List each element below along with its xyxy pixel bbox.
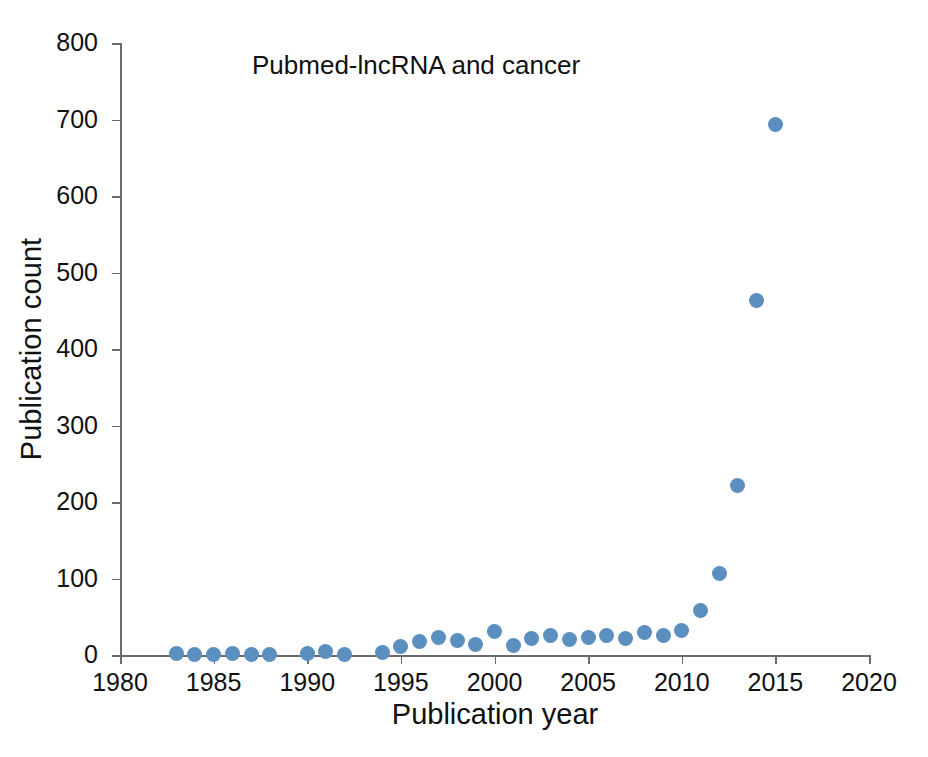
x-tick-mark bbox=[120, 655, 122, 664]
x-tick-label: 1980 bbox=[92, 668, 148, 696]
data-point bbox=[450, 633, 465, 648]
data-point bbox=[506, 638, 521, 653]
x-tick-mark bbox=[775, 655, 777, 664]
data-point bbox=[749, 293, 764, 308]
data-point bbox=[225, 646, 240, 661]
figure-scatter-plot: Pubmed-lncRNA and cancer 010020030040050… bbox=[0, 0, 928, 757]
x-tick-label: 1990 bbox=[279, 668, 335, 696]
data-point bbox=[431, 630, 446, 645]
y-tick-label: 300 bbox=[56, 411, 98, 439]
data-point bbox=[187, 647, 202, 662]
data-point bbox=[206, 647, 221, 662]
data-point bbox=[562, 632, 577, 647]
y-tick-label: 800 bbox=[56, 28, 98, 56]
x-tick-label: 1985 bbox=[186, 668, 242, 696]
data-point bbox=[318, 644, 333, 659]
data-point bbox=[262, 647, 277, 662]
y-axis-title: Publication count bbox=[14, 43, 48, 655]
data-point bbox=[693, 603, 708, 618]
x-tick-mark bbox=[869, 655, 871, 664]
data-point bbox=[768, 117, 783, 132]
data-point bbox=[169, 646, 184, 661]
x-tick-label: 1995 bbox=[373, 668, 429, 696]
data-point bbox=[712, 566, 727, 581]
y-tick-label: 0 bbox=[84, 640, 98, 668]
y-tick-label: 200 bbox=[56, 487, 98, 515]
x-tick-mark bbox=[588, 655, 590, 664]
x-tick-label: 2020 bbox=[841, 668, 897, 696]
data-point bbox=[300, 646, 315, 661]
y-tick-label: 100 bbox=[56, 564, 98, 592]
data-point bbox=[637, 625, 652, 640]
y-tick-label: 400 bbox=[56, 334, 98, 362]
x-tick-label: 2005 bbox=[560, 668, 616, 696]
x-tick-label: 2015 bbox=[748, 668, 804, 696]
x-axis-title: Publication year bbox=[120, 697, 870, 731]
x-tick-label: 2010 bbox=[654, 668, 710, 696]
data-point bbox=[337, 647, 352, 662]
data-point bbox=[656, 628, 671, 643]
x-tick-mark bbox=[495, 655, 497, 664]
x-tick-mark bbox=[401, 655, 403, 664]
y-tick-label: 500 bbox=[56, 258, 98, 286]
data-point bbox=[244, 647, 259, 662]
x-tick-label: 2000 bbox=[467, 668, 523, 696]
x-tick-mark bbox=[682, 655, 684, 664]
data-point bbox=[468, 637, 483, 652]
y-tick-label: 600 bbox=[56, 181, 98, 209]
data-point bbox=[375, 645, 390, 660]
data-point bbox=[581, 630, 596, 645]
data-point bbox=[487, 624, 502, 639]
y-tick-label: 700 bbox=[56, 105, 98, 133]
plot-area bbox=[120, 43, 869, 655]
